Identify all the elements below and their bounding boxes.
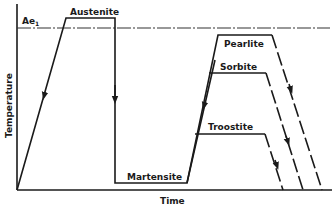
ae1-label: Ae1 [22,16,39,27]
sorbite-label: Sorbite [220,62,257,72]
pearlite-label: Pearlite [224,39,264,49]
martensite-path [17,18,215,190]
heat-treatment-diagram: Ae1 Austenite Martensite Pearlite Sorbit… [0,0,335,208]
pearlite-path [187,35,322,190]
troostite-path [195,134,283,190]
y-axis-label: Temperature [4,73,14,138]
x-axis-label: Time [160,196,185,206]
austenite-label: Austenite [70,7,119,17]
troostite-label: Troostite [208,122,253,132]
axes [17,4,332,190]
martensite-label: Martensite [127,172,182,182]
